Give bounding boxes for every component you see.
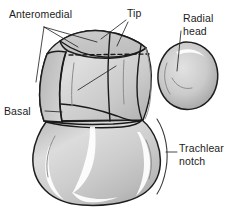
- radial-head-group: [158, 42, 218, 109]
- label-radial-head-line2: head: [183, 25, 207, 37]
- anatomical-figure: Anteromedial Tip Basal Radial head Trach…: [0, 0, 231, 213]
- label-trachlear-notch-line1: Trachlear: [179, 142, 224, 154]
- diagram-canvas: Anteromedial Tip Basal Radial head Trach…: [0, 0, 231, 213]
- label-tip: Tip: [127, 7, 142, 19]
- olecranon-body: [33, 120, 161, 205]
- label-radial-head-line1: Radial: [183, 12, 213, 24]
- ulna-bone-group: [33, 31, 161, 206]
- label-basal: Basal: [4, 105, 31, 117]
- label-anteromedial: Anteromedial: [9, 8, 72, 20]
- label-trachlear-notch-line2: notch: [179, 155, 205, 167]
